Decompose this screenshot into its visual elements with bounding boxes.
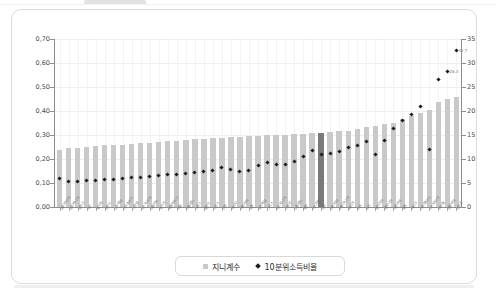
bar: [336, 131, 341, 207]
x-axis-labels: 슬로바키아슬로베니아덴마크체코벨기에핀란드노르웨이아이슬란드스웨덴오스트리아네덜…: [55, 209, 461, 251]
legend-item-gini[interactable]: 지니계수: [203, 261, 240, 272]
tab-divider: [0, 4, 496, 5]
bar: [436, 102, 441, 207]
y-tick-left: [50, 111, 54, 112]
y-axis-left-tick-label: 0,50: [36, 84, 50, 91]
bar: [111, 145, 116, 207]
bar: [84, 147, 89, 207]
y-axis-left-tick-label: 0,40: [36, 108, 50, 115]
card-shadow: [14, 285, 474, 288]
bar: [318, 133, 323, 207]
bar: [391, 123, 396, 207]
bar: [454, 97, 459, 207]
y-axis-left-tick-label: 0,70: [36, 36, 50, 43]
y-tick-right: [462, 135, 466, 136]
data-label: 32,7: [458, 49, 467, 53]
legend-label-decile-ratio: 10분위소득비율: [264, 261, 316, 272]
legend-label-gini: 지니계수: [212, 261, 240, 272]
chart-card: 28,332,7 0,000,100,200,300,400,500,600,7…: [11, 9, 477, 284]
screenshot-root: 28,332,7 0,000,100,200,300,400,500,600,7…: [0, 0, 496, 297]
bar: [300, 134, 305, 207]
x-axis-tick-label: 한국: [222, 204, 228, 211]
y-axis-left-tick-label: 0,60: [36, 60, 50, 67]
bar: [273, 135, 278, 207]
x-axis-tick-label: 호주: [249, 204, 255, 211]
y-axis-right-tick-label: 20: [467, 108, 475, 115]
bar: [400, 119, 405, 207]
bar: [102, 145, 107, 207]
y-tick-right: [462, 39, 466, 40]
y-tick-left: [50, 207, 54, 208]
y-tick-left: [50, 63, 54, 64]
bar: [327, 132, 332, 207]
legend-square-icon: [203, 264, 208, 269]
y-axis-right-tick-label: 0: [467, 204, 471, 211]
y-axis-right-tick-label: 5: [467, 180, 471, 187]
x-axis-tick-label: 체코: [87, 204, 93, 211]
bar: [291, 134, 296, 207]
bar: [427, 110, 432, 207]
y-tick-right: [462, 183, 466, 184]
y-tick-right: [462, 87, 466, 88]
y-axis-left: [54, 39, 55, 207]
y-tick-right: [462, 207, 466, 208]
y-axis-right-tick-label: 15: [467, 132, 475, 139]
bar: [228, 137, 233, 207]
y-axis-right-tick-label: 30: [467, 60, 475, 67]
bar: [210, 138, 215, 207]
bar: [409, 116, 414, 207]
y-tick-left: [50, 39, 54, 40]
chart-legend[interactable]: 지니계수 10분위소득비율: [175, 256, 345, 276]
y-axis-left-tick-label: 0,00: [36, 204, 50, 211]
bar: [418, 113, 423, 207]
y-tick-right: [462, 63, 466, 64]
plot-area: 28,332,7: [55, 39, 461, 207]
y-axis-right-tick-label: 10: [467, 156, 475, 163]
y-tick-left: [50, 183, 54, 184]
bar: [255, 136, 260, 207]
y-axis-left-tick-label: 0,30: [36, 132, 50, 139]
x-axis-tick-label: 독일: [177, 204, 183, 211]
y-axis-left-tick-label: 0,20: [36, 156, 50, 163]
y-tick-right: [462, 159, 466, 160]
y-tick-left: [50, 87, 54, 88]
y-tick-right: [462, 111, 466, 112]
bar: [382, 124, 387, 207]
y-axis-right-tick-label: 35: [467, 36, 475, 43]
legend-diamond-icon: [256, 263, 262, 269]
bar: [264, 135, 269, 207]
bar: [445, 99, 450, 207]
y-tick-left: [50, 135, 54, 136]
bar: [219, 138, 224, 207]
bar: [93, 146, 98, 207]
bar: [309, 133, 314, 207]
legend-item-decile-ratio[interactable]: 10분위소득비율: [256, 261, 316, 272]
y-axis-right: [461, 39, 462, 207]
y-tick-left: [50, 159, 54, 160]
bar: [373, 126, 378, 207]
bar: [355, 129, 360, 207]
y-axis-right-tick-label: 25: [467, 84, 475, 91]
y-axis-left-tick-label: 0,10: [36, 180, 50, 187]
data-label: 28,3: [449, 70, 458, 74]
